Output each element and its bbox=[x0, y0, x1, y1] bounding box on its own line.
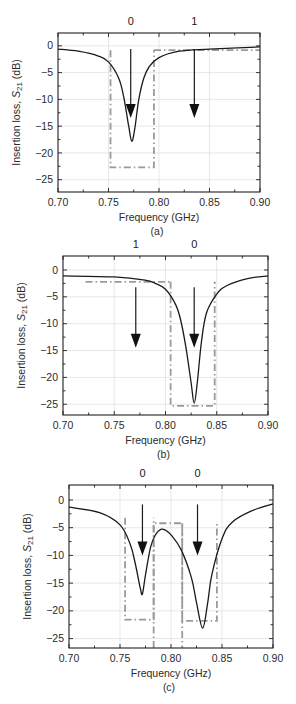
grid-lines bbox=[58, 33, 260, 192]
y-tick-label: −10 bbox=[35, 93, 53, 105]
chart-panel-a: 0.700.750.800.850.900−5−10−15−20−2501Fre… bbox=[10, 15, 270, 237]
y-tick-label: −5 bbox=[41, 66, 53, 78]
panel-caption: (c) bbox=[163, 681, 175, 693]
down-arrow-icon bbox=[131, 287, 141, 348]
x-tick-label: 0.75 bbox=[104, 419, 125, 431]
y-tick-label: −20 bbox=[40, 371, 58, 383]
y-tick-label: −25 bbox=[46, 632, 64, 644]
down-arrow-icon bbox=[126, 49, 136, 118]
x-tick-label: 0.80 bbox=[161, 652, 182, 664]
down-arrow-icon bbox=[189, 49, 199, 118]
y-tick-label: −10 bbox=[40, 317, 58, 329]
y-tick-label: −5 bbox=[52, 521, 64, 533]
state-label: 0 bbox=[139, 467, 145, 479]
x-tick-label: 0.80 bbox=[149, 196, 170, 208]
x-axis-label: Frequency (GHz) bbox=[125, 434, 206, 446]
panel-caption: (a) bbox=[151, 225, 164, 237]
grid-lines bbox=[69, 485, 273, 648]
y-tick-label: −15 bbox=[40, 344, 58, 356]
y-tick-label: −20 bbox=[35, 147, 53, 159]
down-arrow-icon bbox=[189, 287, 199, 348]
x-tick-label: 0.85 bbox=[199, 196, 220, 208]
y-tick-label: −15 bbox=[46, 577, 64, 589]
x-tick-label: 0.75 bbox=[110, 652, 131, 664]
y-axis-label: Insertion loss, S21 (dB) bbox=[10, 59, 24, 165]
state-label: 0 bbox=[194, 467, 200, 479]
x-tick-label: 0.85 bbox=[212, 652, 233, 664]
state-label: 1 bbox=[191, 15, 197, 27]
chart-panel-c: 0.700.750.800.850.900−5−10−15−20−2500Fre… bbox=[21, 467, 283, 693]
y-axis-label: Insertion loss, S21 (dB) bbox=[15, 282, 29, 388]
y-tick-label: −25 bbox=[40, 398, 58, 410]
x-axis-label: Frequency (GHz) bbox=[131, 667, 212, 679]
y-tick-label: −5 bbox=[46, 290, 58, 302]
down-arrow-icon bbox=[193, 504, 203, 555]
down-arrow-icon bbox=[137, 504, 147, 555]
figure-canvas: 0.700.750.800.850.900−5−10−15−20−2501Fre… bbox=[0, 0, 296, 704]
y-tick-label: −15 bbox=[35, 120, 53, 132]
y-tick-label: 0 bbox=[47, 39, 53, 51]
x-tick-label: 0.80 bbox=[155, 419, 176, 431]
x-tick-label: 0.75 bbox=[98, 196, 119, 208]
state-label: 0 bbox=[128, 15, 134, 27]
x-tick-label: 0.90 bbox=[258, 419, 279, 431]
x-tick-label: 0.70 bbox=[59, 652, 80, 664]
y-axis-label: Insertion loss, S21 (dB) bbox=[21, 513, 35, 619]
chart-panel-b: 0.700.750.800.850.900−5−10−15−20−2510Fre… bbox=[15, 238, 278, 460]
x-tick-label: 0.70 bbox=[53, 419, 74, 431]
panel-caption: (b) bbox=[157, 448, 170, 460]
y-tick-label: −10 bbox=[46, 549, 64, 561]
y-tick-label: 0 bbox=[58, 494, 64, 506]
state-label: 1 bbox=[133, 238, 139, 250]
x-tick-label: 0.85 bbox=[207, 419, 228, 431]
y-tick-label: 0 bbox=[52, 264, 58, 276]
x-tick-label: 0.90 bbox=[250, 196, 271, 208]
y-tick-label: −25 bbox=[35, 173, 53, 185]
state-label: 0 bbox=[191, 238, 197, 250]
x-axis-label: Frequency (GHz) bbox=[119, 211, 200, 223]
grid-lines bbox=[63, 256, 268, 415]
x-tick-label: 0.70 bbox=[48, 196, 69, 208]
y-tick-label: −20 bbox=[46, 604, 64, 616]
x-tick-label: 0.90 bbox=[263, 652, 284, 664]
